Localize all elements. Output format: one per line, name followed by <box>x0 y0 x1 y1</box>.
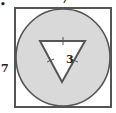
diagram-canvas <box>0 0 116 113</box>
bullet-marker: • <box>0 0 6 9</box>
label-square-left: 7 <box>1 63 9 74</box>
label-triangle-side: 3 <box>66 54 74 65</box>
label-square-top: 7 <box>61 0 69 5</box>
